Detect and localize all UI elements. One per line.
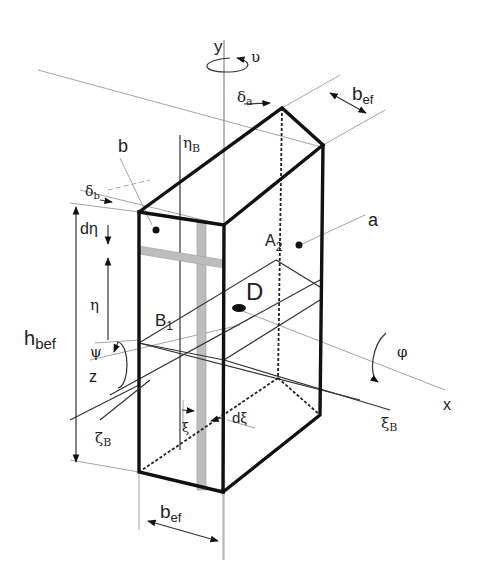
beam-element-diagram: y υ δa bef b ηB δb dη A2 a D η hbef B1 ψ…	[0, 0, 479, 587]
label-a: a	[368, 210, 379, 230]
label-eta: η	[90, 296, 99, 314]
point-d	[232, 304, 246, 312]
box-outline	[139, 108, 323, 492]
label-z: z	[89, 368, 97, 385]
label-b-ef-bottom: bef	[160, 501, 182, 525]
hidden-edges	[139, 108, 320, 472]
rotation-phi-icon	[372, 333, 386, 382]
label-y: y	[214, 37, 223, 56]
label-d: D	[246, 278, 263, 305]
section-lines	[70, 260, 390, 420]
label-eta-b: ηB	[183, 134, 200, 155]
rotation-upsilon-icon	[207, 58, 248, 72]
point-a2	[296, 242, 303, 249]
label-d-eta: dη	[80, 220, 98, 237]
label-phi: φ	[397, 343, 408, 361]
label-x: x	[443, 396, 451, 413]
label-b1: B1	[155, 311, 173, 333]
rotation-psi-icon	[118, 342, 127, 388]
label-b-ef-top: bef	[352, 83, 374, 107]
label-upsilon: υ	[251, 48, 260, 66]
label-d-xi: dξ	[232, 409, 247, 426]
label-delta-b: δb	[85, 183, 100, 201]
label-xi-b: ξB	[381, 414, 397, 434]
label-h-bef: hbef	[24, 327, 57, 352]
point-b	[153, 227, 160, 234]
construction-lines	[38, 40, 445, 560]
label-zeta-b: ζB	[95, 429, 111, 449]
label-b: b	[118, 136, 128, 156]
horizontal-strip	[139, 246, 224, 268]
label-xi: ξ	[182, 420, 189, 435]
label-psi: ψ	[90, 343, 102, 361]
label-delta-a: δa	[237, 88, 253, 108]
